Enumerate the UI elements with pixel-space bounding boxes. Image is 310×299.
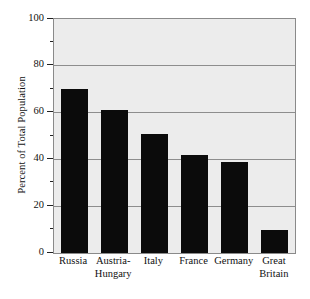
y-tick-label-20: 20	[34, 200, 45, 211]
y-tick-label-0: 0	[39, 247, 44, 258]
bar-germany	[221, 162, 248, 253]
y-axis: 020406080100	[0, 18, 53, 252]
bar-austria-hungary	[101, 110, 128, 253]
y-tick-label-100: 100	[28, 13, 44, 24]
bar-russia	[61, 89, 88, 253]
y-tick-label-80: 80	[34, 59, 45, 70]
gridline-20	[54, 206, 295, 207]
bar-great-britain	[261, 230, 288, 253]
bar-france	[181, 155, 208, 253]
gridline-80	[54, 65, 295, 66]
bar-chart-figure: Percent of Total Population 020406080100…	[0, 0, 310, 299]
x-axis-labels: RussiaAustria- HungaryItalyFranceGermany…	[53, 255, 294, 297]
y-tick-label-40: 40	[34, 153, 45, 164]
gridline-60	[54, 112, 295, 113]
x-axis-label-great-britain: Great Britain	[249, 255, 299, 280]
bar-italy	[141, 134, 168, 253]
plot-area	[53, 18, 296, 254]
y-tick-label-60: 60	[34, 106, 45, 117]
gridline-40	[54, 159, 295, 160]
